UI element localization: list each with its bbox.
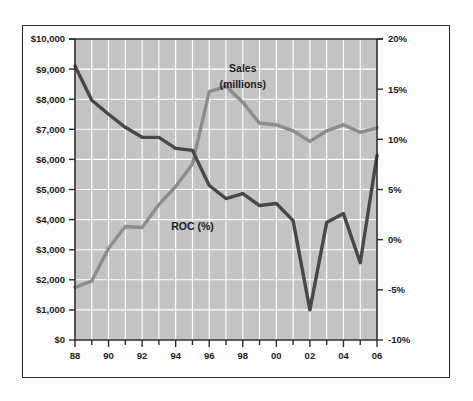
x-axis-tick-label: 94 (170, 350, 181, 361)
series-annotation-label: Sales (229, 62, 257, 74)
x-axis-tick-label: 00 (271, 350, 282, 361)
left-axis-tick-label: $5,000 (36, 184, 65, 195)
right-axis-tick-label: -5% (388, 284, 405, 295)
right-axis-tick-label: 0% (388, 234, 402, 245)
left-axis-tick-label: $4,000 (36, 214, 65, 225)
chart-figure: $0$1,000$2,000$3,000$4,000$5,000$6,000$7… (0, 0, 473, 401)
left-axis-tick-label: $6,000 (36, 154, 65, 165)
x-axis-tick-label: 96 (204, 350, 215, 361)
left-axis-tick-label: $0 (54, 334, 65, 345)
right-axis-tick-label: 5% (388, 184, 402, 195)
x-axis-tick-label: 88 (70, 350, 81, 361)
series-annotation-label: ROC (%) (171, 220, 214, 232)
x-axis-tick-label: 92 (137, 350, 148, 361)
right-axis-tick-label: 20% (388, 33, 408, 44)
left-axis-tick-label: $3,000 (36, 244, 65, 255)
x-axis-tick-label: 04 (338, 350, 349, 361)
left-axis-tick-label: $7,000 (36, 124, 65, 135)
x-axis-tick-label: 98 (237, 350, 248, 361)
left-axis-tick-label: $2,000 (36, 274, 65, 285)
series-annotation-label: (millions) (219, 78, 266, 90)
left-axis-tick-label: $1,000 (36, 304, 65, 315)
left-axis-tick-label: $10,000 (31, 33, 65, 44)
x-axis-tick-label: 02 (305, 350, 316, 361)
x-axis-tick-label: 06 (372, 350, 383, 361)
right-axis-tick-label: 15% (388, 84, 408, 95)
line-chart: $0$1,000$2,000$3,000$4,000$5,000$6,000$7… (0, 0, 473, 401)
left-axis-tick-label: $8,000 (36, 94, 65, 105)
right-axis-tick-label: -10% (388, 334, 411, 345)
left-axis-tick-label: $9,000 (36, 64, 65, 75)
right-axis-tick-label: 10% (388, 134, 408, 145)
x-axis-tick-label: 90 (103, 350, 114, 361)
